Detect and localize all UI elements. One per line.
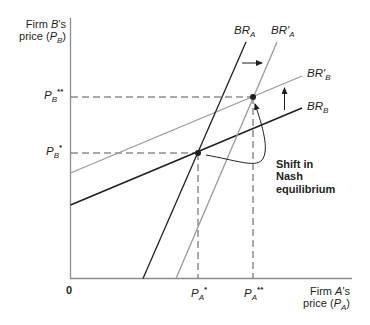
br-b-prime-line <box>71 76 303 173</box>
origin-label: 0 <box>66 284 72 296</box>
br-a-label: BRA <box>234 24 255 40</box>
nash-equilibrium-new <box>250 94 256 100</box>
nash-equilibrium-initial <box>195 150 201 156</box>
br-b-label: BRB <box>307 100 328 116</box>
x-tick-pa-star: PA* <box>191 286 207 303</box>
br-a-prime-label: BR′A <box>271 24 294 40</box>
x-axis-title: Firm A's price (PA) <box>290 285 350 313</box>
y-axis-title: Firm B’s price (PB) <box>10 18 66 46</box>
x-tick-pa-double-star: PA** <box>244 286 263 303</box>
y-tick-pb-double-star: PB** <box>44 88 63 105</box>
br-b-line <box>71 108 303 205</box>
y-tick-pb-star: PB* <box>46 144 62 161</box>
nash-shift-annotation: Shift in Nash equilibrium <box>276 158 335 195</box>
br-b-prime-label: BR′B <box>307 67 330 83</box>
